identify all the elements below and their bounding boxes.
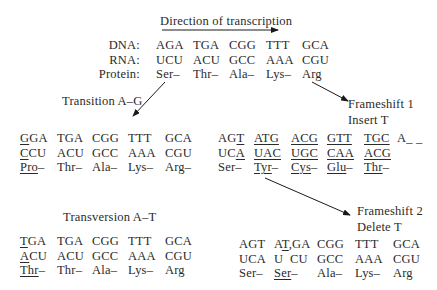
rna-codon: CGU (165, 146, 192, 160)
amino-acid: Tyr– (254, 160, 278, 174)
dna-codon: CGG (92, 234, 119, 248)
dna-codon: TGA (193, 38, 219, 52)
amino-acid: Ser– (218, 160, 242, 174)
amino-acid: Arg (165, 263, 185, 277)
rna-codon: UCU (156, 53, 183, 67)
amino-acid: Ser– (239, 266, 263, 280)
amino-acid: Ala– (92, 263, 117, 277)
dna-codon: AGA (156, 38, 184, 52)
rna-codon: UCA (239, 252, 266, 266)
mutated-base: C (20, 146, 29, 160)
rna-codon: AAA (128, 146, 156, 160)
rna-codon: UGC (291, 146, 318, 160)
dna-codon: GTT (327, 131, 352, 145)
transition-label: Transition A–G (62, 94, 142, 108)
amino-acid: Cys– (291, 160, 318, 174)
rna-codon: AAA (266, 53, 294, 67)
dna-codon: GCA (302, 38, 329, 52)
dna-codon: TGA (20, 234, 46, 248)
rna-codon: UAC (254, 146, 281, 160)
rna-codon: CGU (393, 252, 420, 266)
rna-codon: ACU (20, 249, 47, 263)
amino-acid: Ala– (92, 160, 117, 174)
amino-acid: Thr– (364, 160, 389, 174)
frameshift1-label: Frameshift 1 (348, 97, 414, 111)
amino-acid: Lys– (128, 160, 153, 174)
amino-acid: Thr– (20, 263, 45, 277)
direction-title: Direction of transcription (160, 14, 292, 28)
mutated-base: T (20, 234, 28, 248)
rna-codon: CGU (302, 53, 329, 67)
amino-acid: Arg (302, 67, 322, 81)
dna-codon: AT,GA (274, 237, 311, 251)
rna-codon: U CU (274, 252, 308, 266)
dna-codon: GCA (165, 234, 192, 248)
rna-codon: ACU (193, 53, 220, 67)
dna-codon: TTT (266, 38, 290, 52)
amino-acid: Ser– (274, 266, 298, 280)
amino-acid: Thr– (57, 160, 82, 174)
rna-codon: AAA (355, 252, 383, 266)
dna-codon: GGA (20, 131, 48, 145)
dna-codon: ATG (254, 131, 279, 145)
rna-codon: GCC (92, 249, 118, 263)
dna-codon: CGG (229, 38, 256, 52)
rna-codon: ACU (57, 249, 84, 263)
dna-codon: GCA (165, 131, 192, 145)
dna-codon: TTT (128, 131, 152, 145)
dna-codon: CGG (317, 237, 344, 251)
rna-codon: GCC (92, 146, 118, 160)
amino-acid: Ala– (229, 67, 254, 81)
rna-label: RNA: (70, 53, 140, 67)
amino-acid: Lys– (266, 67, 291, 81)
dna-codon: TGC (364, 131, 390, 145)
amino-acid: Ser– (156, 67, 180, 81)
inserted-base: T (236, 131, 244, 145)
deleted-base: T (282, 237, 289, 251)
mutated-base: G (20, 131, 29, 145)
rna-codon: GCC (229, 53, 255, 67)
arrow-to-frameshift1 (312, 82, 348, 101)
rna-codon: AAA (128, 249, 156, 263)
dna-codon: AGT (218, 131, 244, 145)
amino-acid: Lys– (355, 266, 380, 280)
dna-codon: TTT (128, 234, 152, 248)
rna-codon: CCU (20, 146, 46, 160)
dna-codon: TGA (57, 131, 83, 145)
rna-codon: ACU (57, 146, 84, 160)
dna-codon: TGA (57, 234, 83, 248)
dna-codon: GCA (393, 237, 420, 251)
rna-codon: UCA (218, 146, 245, 160)
changed-amino-acid: Pro (20, 160, 38, 174)
dna-codon: ACG (291, 131, 318, 145)
protein-label: Protein: (70, 67, 140, 81)
dna-label: DNA: (70, 38, 140, 52)
amino-acid: Thr– (193, 67, 218, 81)
amino-acid: Glu– (327, 160, 353, 174)
frameshift2-sublabel: Delete T (357, 220, 402, 234)
inserted-base: A (236, 146, 245, 160)
rna-codon: ACG (364, 146, 391, 160)
dna-codon: AGT (239, 237, 265, 251)
rna-codon: GCC (317, 252, 343, 266)
amino-acid: Arg (393, 266, 413, 280)
rna-codon: CAA (327, 146, 354, 160)
amino-acid: Thr– (57, 263, 82, 277)
transversion-label: Transversion A–T (63, 210, 156, 224)
amino-acid: Lys– (128, 263, 153, 277)
arrow-to-frameshift2 (265, 178, 350, 215)
amino-acid: Arg– (165, 160, 191, 174)
dna-codon: TTT (355, 237, 379, 251)
amino-acid: Ala– (317, 266, 342, 280)
frameshift1-sublabel: Insert T (348, 113, 389, 127)
frameshift2-label: Frameshift 2 (357, 204, 423, 218)
dna-codon: CGG (92, 131, 119, 145)
amino-acid: Pro– (20, 160, 44, 174)
mutated-base: A (20, 249, 29, 263)
rna-codon: CGU (165, 249, 192, 263)
dna-trailing: A_ _ (397, 131, 422, 145)
